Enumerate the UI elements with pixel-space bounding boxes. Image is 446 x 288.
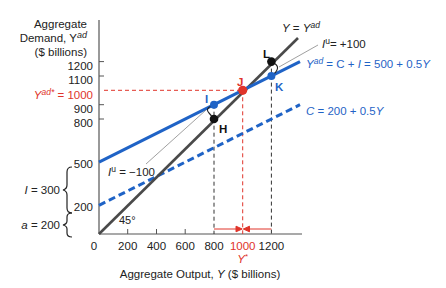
y-star-label: Y* [237,252,248,265]
y-tick-800: 800 [74,117,93,129]
x-tick-1200: 1200 [259,240,285,252]
y-tick-1200: 1200 [67,60,93,72]
consumption-line [99,105,300,206]
point-K-label: K [275,81,284,93]
point-L-label: L [263,48,270,60]
y-axis-title-line1: Aggregate [34,18,87,30]
forty-five-degree-line [99,38,298,234]
x-ticks [128,229,186,234]
y-ticks [99,62,104,119]
y-tick-1100: 1100 [68,74,93,86]
iu-minus-label: Iu = −100 [108,164,155,178]
x-tick-400: 400 [147,240,166,252]
point-H-label: H [219,123,227,135]
x-tick-200: 200 [118,240,137,252]
point-I-label: I [205,93,208,105]
brace-autonomous [63,213,72,237]
x-tick-labels: 0 200 400 600 800 1000 1200 [91,240,284,252]
y-axis-title-line2: Demand, Yad [20,30,88,44]
x-tick-1000: 1000 [230,240,256,252]
forty-five-line-label: Y = Yad [282,20,320,34]
y-tick-200: 200 [74,201,93,213]
y-tick-500: 500 [74,158,93,170]
point-I [210,101,218,109]
aggregate-demand-label: Yad = C + I = 500 + 0.5Y [306,56,431,70]
x-axis-title: Aggregate Output, Y ($ billions) [120,268,281,280]
angle-label: 45° [119,214,136,226]
y-tick-900: 900 [74,103,93,115]
point-K [267,72,275,80]
y-axis-title-line3: ($ billions) [35,46,88,58]
keynesian-cross-chart: Aggregate Demand, Yad ($ billions) 1200 … [0,0,446,288]
brace-investment [63,167,72,213]
brace-autonomous-label: a = 200 [21,219,60,231]
iu-plus-label: Iu= +100 [322,36,366,50]
origin-label: 0 [91,240,97,252]
y-tick-labels: 1200 1100 900 800 500 200 [67,60,93,213]
brace-investment-label: I = 300 [25,184,61,196]
yad-star-label: Yad* = 1000 [34,87,93,101]
y-axis-title: Aggregate Demand, Yad ($ billions) [20,18,88,58]
consumption-label: C = 200 + 0.5Y [306,105,385,117]
x-tick-800: 800 [204,240,223,252]
point-H [210,115,219,124]
point-J-label: J [237,76,243,88]
x-tick-600: 600 [176,240,195,252]
